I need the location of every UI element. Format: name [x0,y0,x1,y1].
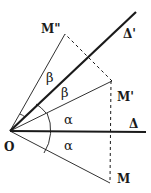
label-delta: Δ [129,117,138,131]
line-delta [10,131,146,132]
label-m-double-prime: M" [41,22,61,36]
label-alpha-lower: α [64,138,73,153]
segment-om [10,131,110,183]
label-beta-upper: β [46,70,54,85]
reflection-diagram: O M M' M" Δ Δ' α α β β [0,0,151,193]
angle-arc-alpha [44,113,51,153]
segment-om-double-prime [10,34,65,131]
angle-arc-beta-lower [36,104,46,113]
label-beta-lower: β [61,85,69,100]
label-delta-prime: Δ' [123,27,136,41]
label-m: M [117,172,130,186]
label-m-prime: M' [117,90,134,104]
angle-arc-beta-upper [20,114,25,117]
label-o: O [4,140,14,154]
label-alpha-upper: α [64,112,73,127]
line-delta-prime [10,12,136,131]
